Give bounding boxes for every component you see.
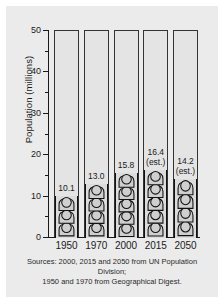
y-tick-minor (45, 92, 49, 93)
bar[interactable] (115, 173, 138, 238)
x-tick-label: 2050 (174, 240, 196, 251)
y-tick-major (43, 154, 49, 155)
bar[interactable] (85, 184, 108, 238)
plot-area: 01020304050 10.1195013.0197015.8200016.4… (48, 30, 200, 238)
y-tick-major (43, 196, 49, 197)
bar-column[interactable]: 15.82000 (114, 30, 139, 238)
bar[interactable] (174, 179, 197, 238)
bar[interactable] (55, 196, 78, 238)
bar-value-label: 13.0 (88, 172, 105, 182)
y-tick-minor (45, 216, 49, 217)
y-tick-label: 50 (31, 25, 41, 35)
y-tick-minor (45, 51, 49, 52)
y-tick-minor (45, 134, 49, 135)
x-tick-label: 1950 (55, 240, 77, 251)
bar-value: 10.1 (58, 184, 75, 194)
y-tick-label: 40 (31, 66, 41, 76)
y-tick-major (43, 30, 49, 31)
source-note: Sources: 2000, 2015 and 2050 from UN Pop… (14, 257, 210, 287)
y-tick-major (43, 113, 49, 114)
bar-column[interactable]: 10.11950 (54, 30, 79, 238)
bar-value-label: 16.4(est.) (146, 148, 165, 167)
source-note-line-2: 1950 and 1970 from Geographical Digest. (14, 277, 210, 287)
x-tick-label: 2000 (115, 240, 137, 251)
bar-value-label: 10.1 (58, 184, 75, 194)
y-tick-minor (45, 175, 49, 176)
y-tick-major (43, 71, 49, 72)
bar-value-estimate-note: (est.) (176, 167, 195, 177)
source-note-line-1: Sources: 2000, 2015 and 2050 from UN Pop… (14, 257, 210, 277)
bar-column[interactable]: 16.4(est.)2015 (143, 30, 168, 238)
bar-value: 13.0 (88, 172, 105, 182)
x-tick-label: 1970 (85, 240, 107, 251)
bar-value-label: 14.2(est.) (176, 157, 195, 176)
x-tick-label: 2015 (145, 240, 167, 251)
chart-figure: Population (millions) 01020304050 10.119… (6, 6, 218, 297)
bar-column[interactable]: 13.01970 (84, 30, 109, 238)
y-tick-major (43, 237, 49, 238)
y-tick-label: 30 (31, 108, 41, 118)
chart-page: Population (millions) 01020304050 10.119… (0, 0, 224, 303)
bar[interactable] (144, 170, 167, 238)
y-tick-label: 0 (36, 232, 41, 242)
y-tick-label: 10 (31, 191, 41, 201)
bar-value-estimate-note: (est.) (146, 158, 165, 168)
bar-column[interactable]: 14.2(est.)2050 (173, 30, 198, 238)
bar-value: 15.8 (118, 161, 135, 171)
y-tick-label: 20 (31, 149, 41, 159)
bar-value-label: 15.8 (118, 161, 135, 171)
